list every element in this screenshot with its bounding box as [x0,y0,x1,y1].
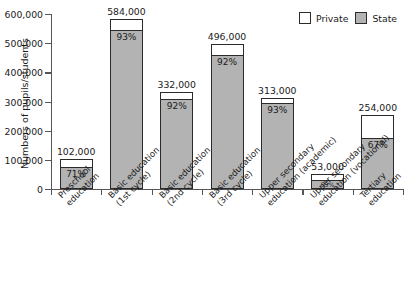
bar-percent-label: 92% [161,101,192,111]
bar-percent-label: 93% [111,32,142,42]
bar-total-label: 313,000 [258,85,296,96]
bar-total-label: 102,000 [57,146,95,157]
x-tick [403,189,404,195]
bar-total-label: 496,000 [208,31,246,42]
y-tick-label: 300,000 [5,96,43,107]
bar-total-label: 332,000 [157,79,195,90]
bar-total-label: 584,000 [107,6,145,17]
chart-container: Numbers of pupils/students Private State… [0,0,419,290]
y-tick-label: 600,000 [5,9,43,20]
y-tick-label: 100,000 [5,154,43,165]
bar-percent-label: 92% [212,57,243,67]
y-tick-label: 0 [37,184,43,195]
bar-total-label: 254,000 [359,102,397,113]
bar-percent-label: 93% [262,105,293,115]
y-tick-label: 400,000 [5,67,43,78]
x-axis-labels: PreschooleducationBasic education(1st cy… [51,189,403,290]
y-tick-label: 500,000 [5,38,43,49]
y-tick-label: 200,000 [5,125,43,136]
